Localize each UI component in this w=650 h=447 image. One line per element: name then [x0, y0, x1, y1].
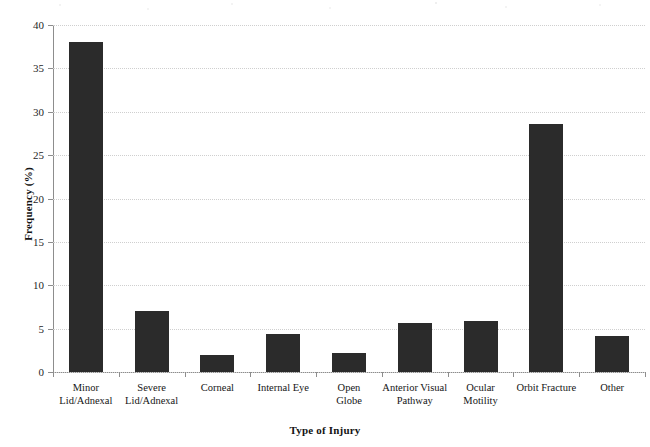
- x-tick-label-line: Other: [572, 381, 650, 394]
- x-tick-mark: [579, 372, 580, 377]
- y-tick-label-40: 40: [10, 20, 44, 31]
- bar: [69, 42, 103, 372]
- gridline-0: [53, 372, 645, 373]
- y-tick-label-35: 35: [10, 63, 44, 74]
- y-tick-label-10: 10: [10, 280, 44, 291]
- x-tick-label: Other: [572, 381, 650, 394]
- x-tick-mark: [645, 372, 646, 377]
- x-tick-mark: [185, 372, 186, 377]
- scan-noise-artifact: [0, 0, 650, 14]
- bar: [135, 311, 169, 372]
- x-tick-label-line: Lid/Adnexal: [112, 394, 192, 407]
- bar: [332, 353, 366, 372]
- x-tick-mark: [53, 372, 54, 377]
- gridline-35: [53, 68, 645, 69]
- x-tick-mark: [316, 372, 317, 377]
- x-tick-mark: [513, 372, 514, 377]
- x-tick-mark: [250, 372, 251, 377]
- bar-chart: Frequency (%) 0510152025303540 MinorLid/…: [0, 0, 650, 447]
- bar: [266, 334, 300, 372]
- x-tick-mark: [382, 372, 383, 377]
- gridline-40: [53, 25, 645, 26]
- x-tick-label-line: Motility: [441, 394, 521, 407]
- y-tick-label-30: 30: [10, 107, 44, 118]
- y-tick-label-0: 0: [10, 367, 44, 378]
- gridline-30: [53, 112, 645, 113]
- bar: [200, 355, 234, 372]
- plot-area: [53, 25, 645, 372]
- x-axis-title: Type of Injury: [0, 424, 650, 436]
- bar: [398, 323, 432, 372]
- y-tick-label-5: 5: [10, 324, 44, 335]
- bar: [529, 124, 563, 372]
- y-tick-label-25: 25: [10, 150, 44, 161]
- bar: [595, 336, 629, 372]
- y-tick-label-15: 15: [10, 237, 44, 248]
- bar: [464, 321, 498, 372]
- x-tick-mark: [119, 372, 120, 377]
- y-tick-label-20: 20: [10, 194, 44, 205]
- x-tick-mark: [448, 372, 449, 377]
